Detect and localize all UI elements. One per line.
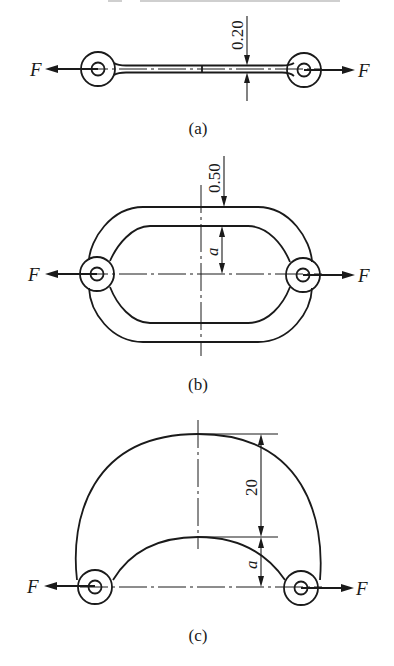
dim-arrow-down-icon	[244, 55, 250, 66]
panel-a: F F 0.20 (a)	[29, 16, 370, 138]
caption-c: (c)	[189, 626, 208, 645]
dim-label-offset: a	[203, 248, 222, 257]
force-label-right: F	[357, 265, 370, 286]
arrow-right-icon	[341, 584, 354, 592]
dim-arrow-down-icon	[258, 576, 264, 587]
dim-arrow-down-icon	[221, 196, 227, 207]
panel-c: F F 20 a (c)	[26, 420, 368, 645]
dim-label-thickness: 0.20	[228, 20, 247, 50]
dim-label-offset: a	[242, 561, 261, 570]
dim-arrow-down-icon	[219, 263, 225, 274]
link-bar-bottom	[114, 73, 294, 77]
panel-b: F F 0.50 a (b)	[27, 156, 370, 394]
dim-arrow-up-icon	[219, 226, 225, 237]
mechanics-figure: F F 0.20 (a) F F 0.50	[0, 0, 394, 666]
caption-a: (a)	[189, 119, 208, 138]
force-label-left: F	[27, 264, 40, 285]
dim-label-height: 20	[242, 479, 261, 496]
cropped-header-fragment	[108, 0, 340, 2]
force-label-left: F	[26, 576, 39, 597]
dim-label-thickness: 0.50	[205, 163, 224, 193]
force-label-right: F	[357, 60, 370, 81]
dim-arrow-up-icon	[258, 434, 264, 445]
dim-arrow-down-icon	[258, 526, 264, 537]
arch-inner	[113, 537, 285, 580]
arrow-left-icon	[45, 270, 58, 278]
force-label-right: F	[355, 578, 368, 599]
dim-arrow-up-icon	[244, 73, 250, 84]
arrow-right-icon	[342, 66, 355, 74]
link-bar-top	[114, 63, 294, 66]
arrow-left-icon	[44, 582, 57, 590]
arrow-left-icon	[45, 65, 58, 73]
caption-b: (b)	[188, 375, 208, 394]
force-label-left: F	[29, 59, 42, 80]
dim-arrow-up-icon	[258, 537, 264, 548]
arrow-right-icon	[342, 271, 355, 279]
